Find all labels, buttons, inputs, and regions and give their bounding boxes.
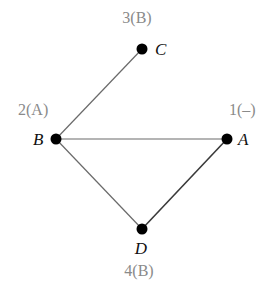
- node-d-label: D: [134, 239, 148, 258]
- node-a-order: 1(–): [229, 101, 256, 119]
- node-b-label: B: [33, 130, 44, 149]
- node-d: D 4(B): [124, 224, 153, 281]
- graph-diagram: C 3(B) B 2(A) A 1(–) D 4(B): [0, 0, 277, 297]
- node-a-label: A: [237, 130, 249, 149]
- node-c-label: C: [155, 40, 167, 59]
- edge-b-c: [56, 49, 142, 139]
- node-d-dot: [137, 224, 148, 235]
- node-a: A 1(–): [222, 101, 256, 149]
- node-c-dot: [137, 44, 148, 55]
- node-a-dot: [222, 134, 233, 145]
- edge-a-d: [142, 139, 227, 229]
- node-c: C 3(B): [122, 9, 167, 59]
- node-b-order: 2(A): [18, 101, 48, 119]
- node-b: B 2(A): [18, 101, 62, 149]
- node-b-dot: [51, 134, 62, 145]
- node-c-order: 3(B): [122, 9, 151, 27]
- node-d-order: 4(B): [124, 262, 153, 280]
- edge-b-d: [56, 139, 142, 229]
